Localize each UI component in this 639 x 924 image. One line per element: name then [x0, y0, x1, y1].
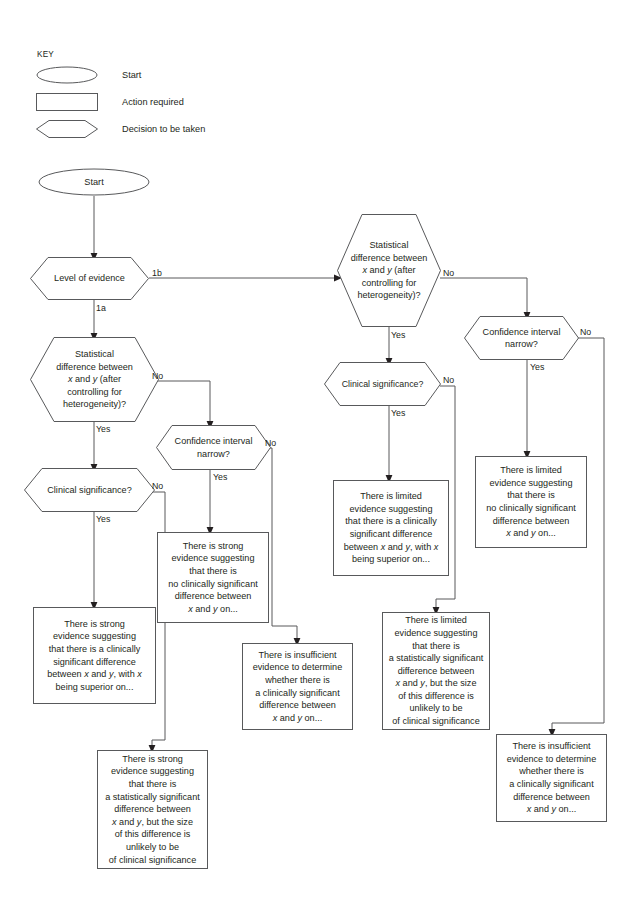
node-confidence-interval-left-label: Confidence intervalnarrow? [156, 435, 271, 460]
edge-label-stat-left-no: No [152, 371, 163, 381]
node-confidence-interval-right[interactable]: Confidence intervalnarrow? [464, 316, 579, 360]
node-statistical-difference-right[interactable]: Statisticaldifference betweenx and y (af… [337, 214, 441, 327]
edge-label-ci-left-yes: Yes [213, 472, 227, 482]
outcome-limited-statistical-text: There is limitedevidence suggestingthat … [389, 614, 484, 727]
outcome-strong-no-clinical[interactable]: There is strongevidence suggestingthat t… [157, 532, 269, 623]
outcome-limited-statistical[interactable]: There is limitedevidence suggestingthat … [382, 612, 490, 730]
edge-label-level-1b: 1b [152, 268, 162, 278]
edge-label-stat-right-yes: Yes [391, 330, 405, 340]
node-confidence-interval-right-label: Confidence intervalnarrow? [464, 326, 579, 351]
node-start-label: Start [38, 177, 150, 187]
outcome-insufficient-left[interactable]: There is insufficientevidence to determi… [242, 643, 353, 730]
edge-label-clin-right-yes: Yes [391, 408, 405, 418]
edge-label-level-1a: 1a [96, 303, 106, 313]
node-clinical-significance-right-label: Clinical significance? [324, 378, 441, 390]
edge-label-ci-left-no: No [265, 438, 276, 448]
edge-label-clin-right-no: No [443, 375, 454, 385]
outcome-strong-no-clinical-text: There is strongevidence suggestingthat t… [168, 540, 257, 616]
edge-label-ci-right-no: No [580, 327, 591, 337]
node-statistical-difference-left[interactable]: Statisticaldifference betweenx and y (af… [30, 337, 159, 422]
outcome-limited-clinical-text: There is limitedevidence suggestingthat … [344, 490, 439, 566]
outcome-limited-no-clinical[interactable]: There is limitedevidence suggestingthat … [475, 456, 587, 548]
outcome-strong-statistical[interactable]: There is strongevidence suggestingthat t… [97, 750, 208, 869]
outcome-insufficient-left-text: There is insufficientevidence to determi… [253, 649, 342, 725]
outcome-limited-no-clinical-text: There is limitedevidence suggestingthat … [486, 464, 575, 540]
node-clinical-significance-left-label: Clinical significance? [24, 484, 155, 496]
node-start[interactable]: Start [38, 168, 150, 196]
edge-label-stat-left-yes: Yes [96, 424, 110, 434]
edge-label-ci-right-yes: Yes [530, 362, 544, 372]
node-level-of-evidence-label: Level of evidence [30, 272, 149, 284]
node-level-of-evidence[interactable]: Level of evidence [30, 257, 149, 300]
node-statistical-difference-right-label: Statisticaldifference betweenx and y (af… [337, 239, 441, 301]
outcome-insufficient-right[interactable]: There is insufficientevidence to determi… [496, 734, 607, 822]
outcome-strong-clinical-text: There is strongevidence suggestingthat t… [47, 618, 142, 694]
outcome-limited-clinical[interactable]: There is limitedevidence suggestingthat … [333, 480, 449, 576]
edge-label-clin-left-yes: Yes [96, 514, 110, 524]
node-clinical-significance-right[interactable]: Clinical significance? [324, 362, 441, 406]
outcome-strong-clinical[interactable]: There is strongevidence suggestingthat t… [33, 607, 156, 704]
flowchart-canvas: KEY Start Action required Decision to be… [0, 0, 639, 924]
edge-label-stat-right-no: No [443, 268, 454, 278]
outcome-strong-statistical-text: There is strongevidence suggestingthat t… [105, 753, 200, 866]
node-confidence-interval-left[interactable]: Confidence intervalnarrow? [156, 425, 271, 470]
node-clinical-significance-left[interactable]: Clinical significance? [24, 468, 155, 512]
node-statistical-difference-left-label: Statisticaldifference betweenx and y (af… [30, 348, 159, 410]
edge-label-clin-left-no: No [152, 481, 163, 491]
outcome-insufficient-right-text: There is insufficientevidence to determi… [507, 740, 596, 816]
